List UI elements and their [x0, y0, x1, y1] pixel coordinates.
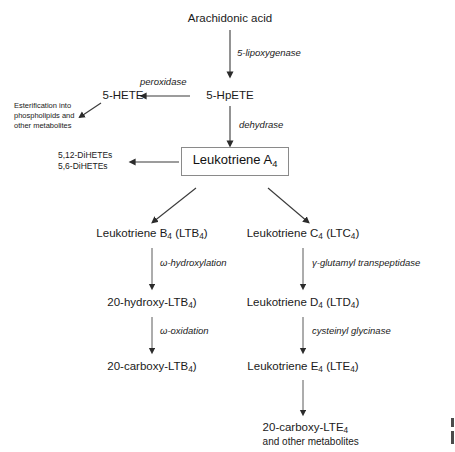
node-arachidonic-acid: Arachidonic acid	[188, 12, 272, 25]
ltc4-prefix: Leukotriene C	[247, 227, 319, 239]
node-hpete-label: 5-HpETE	[206, 89, 253, 101]
node-hete: 5-HETE	[103, 89, 144, 102]
node-hpete: 5-HpETE	[206, 89, 253, 102]
enzyme-cysteinyl-glycinase: cysteinyl glycinase	[312, 325, 391, 336]
dihetes-line-2: 5,6-DiHETEs	[58, 161, 112, 172]
node-20-carboxy-lte4: 20-carboxy-LTE4 and other metabolites	[263, 421, 359, 448]
enzyme-gamma-glutamyl-transpeptidase: γ-glutamyl transpeptidase	[312, 257, 420, 268]
diagram-edges	[0, 0, 455, 452]
edge-hete-to-esterification	[80, 103, 101, 117]
page-edge-artifact	[451, 418, 454, 444]
node-arachidonic-acid-label: Arachidonic acid	[188, 12, 272, 24]
enzyme-dehydrase: dehydrase	[239, 119, 283, 130]
esterification-line-2: phospholipids and	[14, 111, 74, 121]
node-dihetes: 5,12-DiHETEs 5,6-DiHETEs	[58, 150, 112, 171]
leukotriene-a4-label: Leukotriene A4	[193, 152, 278, 172]
edge-lta4-to-ltb4	[153, 188, 196, 222]
lte4-prefix: Leukotriene E	[247, 360, 318, 372]
enzyme-peroxidase: peroxidase	[140, 76, 186, 87]
ltd4-abbrev: (LTD	[326, 296, 351, 308]
carboxy-ltb4-prefix: 20-carboxy-LTB	[107, 360, 188, 372]
node-lte4: Leukotriene E4 (LTE4)	[247, 360, 358, 376]
ltb4-prefix: Leukotriene B	[96, 227, 167, 239]
hydroxy-ltb4-prefix: 20-hydroxy-LTB	[107, 296, 188, 308]
carboxy-lte4-line-2: and other metabolites	[263, 437, 359, 448]
node-20-hydroxy-ltb4: 20-hydroxy-LTB4)	[107, 296, 196, 312]
esterification-line-3: other metabolites	[14, 121, 74, 131]
node-ltb4: Leukotriene B4 (LTB4)	[96, 227, 207, 243]
lte4-abbrev: (LTE	[326, 360, 350, 372]
node-ltc4: Leukotriene C4 (LTC4)	[247, 227, 360, 243]
carboxy-lte4-line-1: 20-carboxy-LTE4	[263, 421, 359, 437]
enzyme-omega-hydroxylation: ω-hydroxylation	[160, 257, 227, 268]
esterification-line-1: Esterification into	[14, 101, 74, 111]
enzyme-5-lipoxygenase: 5-lipoxygenase	[237, 47, 301, 58]
enzyme-omega-oxidation: ω-oxidation	[160, 325, 209, 336]
dihetes-line-1: 5,12-DiHETEs	[58, 150, 112, 161]
pathway-diagram: Arachidonic acid 5-HpETE 5-HETE Esterifi…	[0, 0, 455, 452]
ltc4-abbrev: (LTC	[326, 227, 351, 239]
ltd4-prefix: Leukotriene D	[247, 296, 319, 308]
node-ltd4: Leukotriene D4 (LTD4)	[247, 296, 360, 312]
node-hete-label: 5-HETE	[103, 89, 144, 101]
ltb4-abbrev: (LTB	[175, 227, 199, 239]
edge-lta4-to-ltc4	[268, 188, 308, 222]
node-esterification: Esterification into phospholipids and ot…	[14, 101, 74, 131]
node-20-carboxy-ltb4: 20-carboxy-LTB4)	[107, 360, 196, 376]
node-leukotriene-a4-box: Leukotriene A4	[181, 147, 289, 176]
